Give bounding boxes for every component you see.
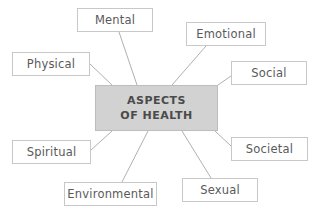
node-label: Physical [27,57,75,71]
node-social: Social [231,61,307,85]
connector-societal [215,131,231,146]
connector-social [218,76,231,85]
connector-mental [119,32,137,85]
connector-spiritual [91,131,112,150]
node-label: Mental [95,13,135,27]
center-node-label-line2: OF HEALTH [120,108,192,123]
node-label: Societal [246,142,293,156]
node-label: Environmental [67,187,153,201]
node-societal: Societal [231,137,308,161]
connector-emotional [172,46,206,85]
node-label: Social [251,66,286,80]
connector-environmental [122,131,148,182]
node-physical: Physical [12,52,90,76]
node-label: Spiritual [27,145,77,159]
diagram-canvas: ASPECTS OF HEALTH Mental Emotional Physi… [0,0,320,219]
node-label: Sexual [200,183,240,197]
node-mental: Mental [77,8,153,32]
node-sexual: Sexual [182,178,258,202]
node-label: Emotional [196,27,256,41]
node-environmental: Environmental [64,182,157,206]
node-spiritual: Spiritual [12,140,91,164]
connector-sexual [182,131,211,178]
center-node-aspects-of-health: ASPECTS OF HEALTH [95,85,218,131]
connector-physical [90,64,112,85]
center-node-label-line1: ASPECTS [127,93,186,108]
node-emotional: Emotional [186,22,266,46]
